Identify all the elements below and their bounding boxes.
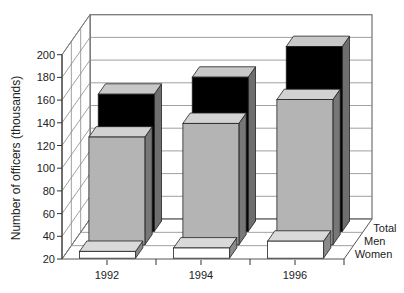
depth-label-women: Women xyxy=(355,248,393,260)
bar-women-1994 xyxy=(174,238,237,259)
y-axis-label: Number of officers (thousands) xyxy=(9,76,23,241)
y-tick-label: 200 xyxy=(37,49,55,61)
bar-men-1996 xyxy=(277,89,340,245)
bar-women-1996 xyxy=(268,231,331,258)
depth-label-men: Men xyxy=(364,235,385,247)
y-tick-label: 80 xyxy=(43,185,55,197)
y-tick-label: 160 xyxy=(37,94,55,106)
bar-men-1994 xyxy=(183,113,246,245)
y-tick-label: 180 xyxy=(37,71,55,83)
x-label-1996: 1996 xyxy=(283,269,307,281)
x-label-1992: 1992 xyxy=(95,269,119,281)
officers-3d-bar-chart: 20406080100120140160180200199219941996Wo… xyxy=(0,0,404,293)
depth-label-total: Total xyxy=(373,222,396,234)
y-tick-label: 40 xyxy=(43,230,55,242)
y-tick-label: 60 xyxy=(43,208,55,220)
y-tick-label: 20 xyxy=(43,253,55,265)
y-tick-label: 120 xyxy=(37,140,55,152)
y-tick-label: 140 xyxy=(37,117,55,129)
bar-women-1992 xyxy=(80,241,143,258)
bar-men-1992 xyxy=(89,127,152,245)
x-label-1994: 1994 xyxy=(189,269,213,281)
y-tick-label: 100 xyxy=(37,162,55,174)
